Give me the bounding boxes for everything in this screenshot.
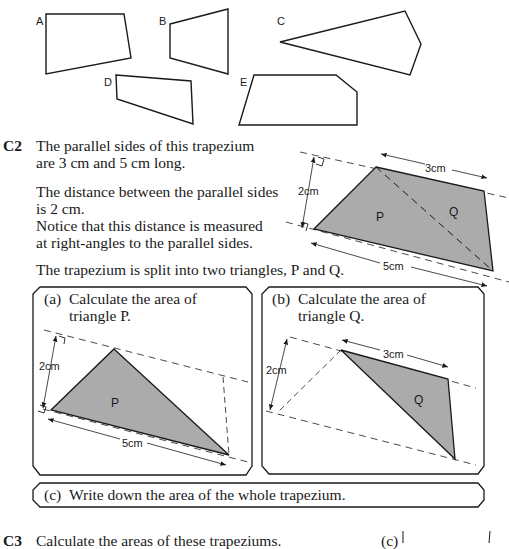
- part-a-question: Calculate the area of: [69, 291, 197, 307]
- part-c-label: (c): [44, 487, 61, 503]
- c3-text: Calculate the areas of these trapeziums.: [36, 533, 281, 549]
- part-a-base-label: 5cm: [122, 435, 143, 451]
- triangle-p-label: P: [376, 209, 384, 225]
- question-number-c3: C3: [3, 533, 22, 549]
- part-a-question: triangle P.: [69, 308, 131, 324]
- shape-c: [280, 11, 421, 75]
- c2-text-line: is 2 cm.: [36, 201, 85, 217]
- triangle-q-label: Q: [449, 204, 458, 220]
- c2-text-line: The parallel sides of this trapezium: [36, 138, 254, 154]
- shape-label-e: E: [240, 74, 247, 90]
- bottom-side-label: 5cm: [383, 258, 404, 274]
- c2-text-line: The trapezium is split into two triangle…: [36, 262, 344, 278]
- height-label: 2cm: [298, 183, 319, 199]
- c2-text-line: are 3 cm and 5 cm long.: [36, 155, 185, 171]
- triangle-p-diagram: [38, 330, 248, 465]
- c2-text-line: at right-angles to the parallel sides.: [36, 235, 253, 251]
- triangle-q-diagram: [266, 337, 476, 465]
- shape-e: [239, 75, 357, 125]
- shape-b: [170, 9, 228, 74]
- part-b-label: (b): [272, 291, 290, 307]
- part-b-triangle-label: Q: [414, 392, 423, 408]
- part-a-height-label: 2cm: [39, 358, 60, 374]
- part-b-base-label: 3cm: [383, 346, 404, 362]
- part-b-question: triangle Q.: [298, 308, 364, 324]
- c2-text-line: Notice that this distance is measured: [36, 218, 263, 234]
- c3-part-c-label: (c): [381, 533, 398, 549]
- shape-label-d: D: [104, 74, 112, 90]
- top-side-label: 3cm: [425, 160, 446, 176]
- shape-label-c: C: [277, 13, 285, 29]
- part-a-label: (a): [44, 291, 61, 307]
- part-b-question: Calculate the area of: [298, 291, 426, 307]
- shape-d: [116, 75, 193, 124]
- part-b-height-label: 2cm: [266, 362, 287, 378]
- c2-text-line: The distance between the parallel sides: [36, 184, 278, 200]
- shape-label-a: A: [36, 13, 43, 29]
- shape-label-b: B: [159, 13, 166, 29]
- part-c-question: Write down the area of the whole trapezi…: [69, 487, 346, 503]
- question-number-c2: C2: [3, 138, 22, 154]
- shape-a: [46, 14, 131, 74]
- part-a-triangle-label: P: [111, 395, 119, 411]
